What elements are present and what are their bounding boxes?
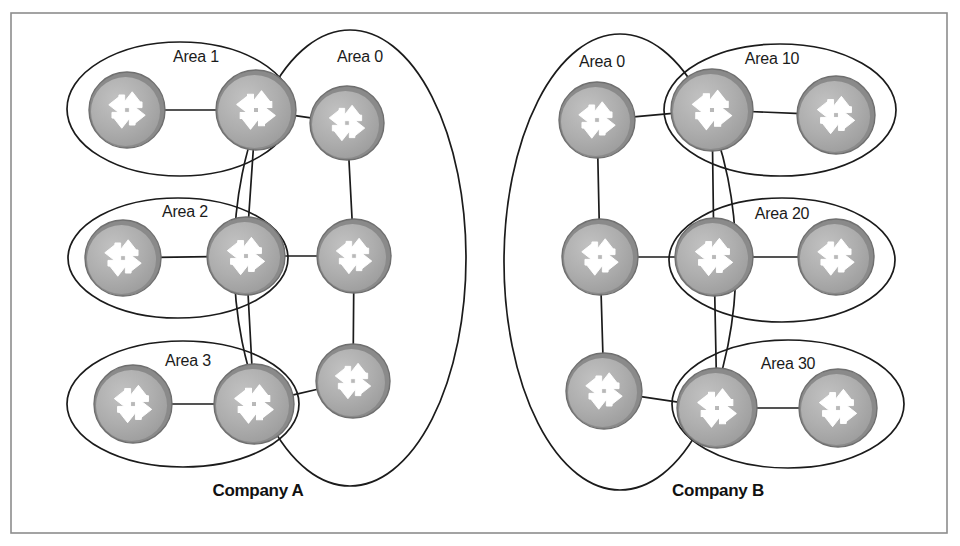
router-body — [568, 358, 637, 427]
link-b-r2-to-b-r3 — [749, 111, 801, 113]
router-icon[interactable] — [671, 69, 753, 151]
router-icon[interactable] — [566, 353, 642, 429]
router-icon[interactable] — [310, 86, 384, 160]
router-body — [799, 81, 870, 152]
router-icon[interactable] — [559, 82, 635, 158]
router-body — [318, 349, 385, 416]
area-label-area-10: Area 10 — [745, 50, 800, 67]
router-icon[interactable] — [677, 368, 757, 448]
link-b-r7-to-b-r8 — [638, 396, 682, 403]
network-topology-diagram: Area 1Area 0Area 2Area 3Area 0Area 10Are… — [0, 0, 960, 546]
area-label-area-0-b: Area 0 — [579, 53, 625, 70]
area-label-area-2: Area 2 — [162, 203, 208, 220]
link-b-r1-to-b-r2 — [631, 113, 675, 117]
router-icon[interactable] — [317, 219, 391, 293]
router-body — [319, 224, 386, 291]
link-b-r2-to-b-r5 — [713, 147, 714, 222]
router-body — [677, 223, 748, 294]
router-icon[interactable] — [85, 220, 161, 296]
router-icon[interactable] — [94, 365, 172, 443]
area-label-area-3: Area 3 — [165, 352, 211, 369]
router-body — [801, 374, 872, 445]
routers-layer — [85, 69, 877, 448]
router-icon[interactable] — [214, 364, 294, 444]
router-icon[interactable] — [316, 344, 390, 418]
link-a-r8-to-a-r9 — [289, 388, 321, 395]
link-b-r4-to-b-r7 — [601, 291, 603, 357]
router-icon[interactable] — [89, 72, 165, 148]
link-b-r5-to-b-r8 — [715, 292, 717, 372]
router-body — [673, 74, 748, 149]
router-body — [216, 369, 289, 442]
router-body — [209, 222, 280, 293]
link-b-r1-to-b-r4 — [598, 154, 600, 223]
router-body — [91, 77, 160, 146]
area-label-area-20: Area 20 — [755, 205, 810, 222]
router-body — [312, 91, 379, 158]
area-label-area-0-a: Area 0 — [337, 48, 383, 65]
company-labels-layer: Company ACompany B — [212, 481, 763, 500]
area-boundaries-layer — [67, 30, 904, 490]
router-body — [218, 75, 291, 148]
router-icon[interactable] — [797, 76, 875, 154]
link-a-r3-to-a-r6 — [349, 156, 353, 223]
router-body — [96, 370, 167, 441]
router-icon[interactable] — [207, 217, 285, 295]
router-body — [87, 225, 156, 294]
router-icon[interactable] — [798, 219, 874, 295]
area-label-area-30: Area 30 — [761, 355, 816, 372]
router-body — [679, 373, 752, 446]
router-icon[interactable] — [675, 218, 753, 296]
router-icon[interactable] — [799, 369, 877, 447]
link-a-r4-to-a-r5 — [157, 257, 211, 258]
link-a-r2-to-a-r5 — [248, 146, 253, 221]
company-label-company-b: Company B — [672, 481, 764, 500]
figure-container: Area 1Area 0Area 2Area 3Area 0Area 10Are… — [0, 0, 960, 546]
router-body — [800, 224, 869, 293]
company-label-company-a: Company A — [212, 481, 303, 500]
router-icon[interactable] — [562, 219, 638, 295]
router-body — [564, 224, 633, 293]
router-body — [561, 87, 630, 156]
area-label-area-1: Area 1 — [173, 48, 219, 65]
router-icon[interactable] — [216, 70, 296, 150]
